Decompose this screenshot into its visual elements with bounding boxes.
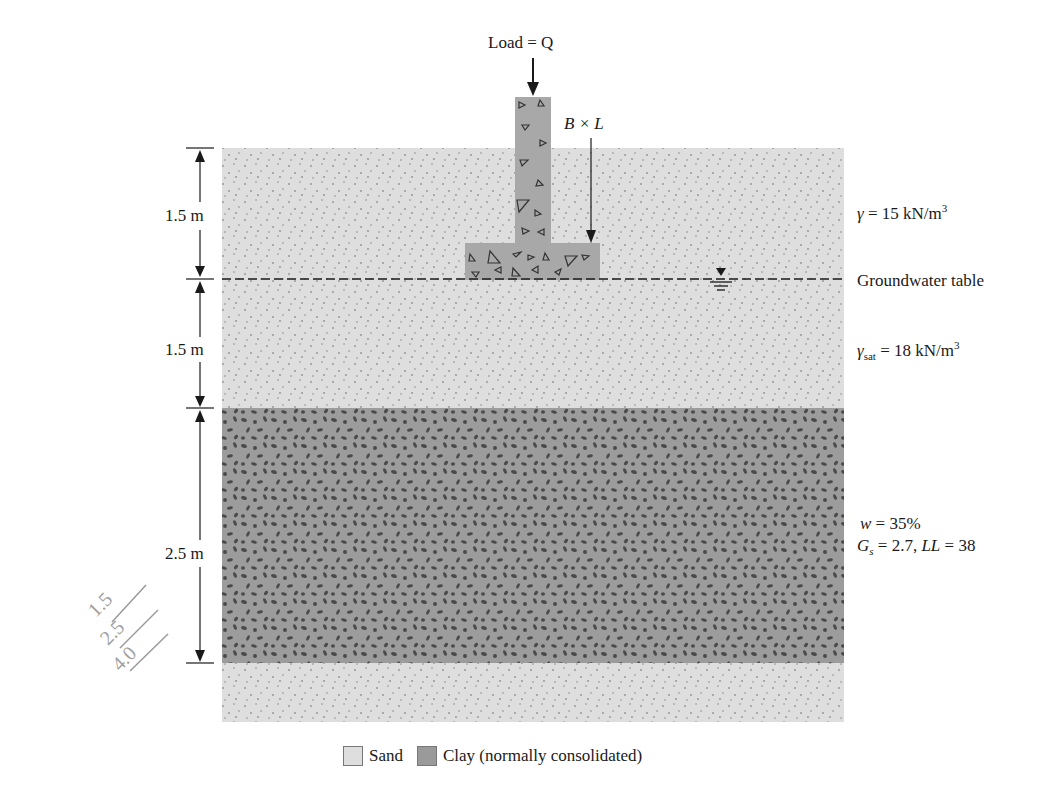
clay-swatch-icon <box>417 746 437 766</box>
sand-swatch-icon <box>343 746 363 766</box>
gamma-symbol: γ <box>857 204 864 223</box>
legend: Sand Clay (normally consolidated) <box>343 746 656 766</box>
w-symbol: w <box>860 514 871 533</box>
sand-layer-saturated <box>222 278 844 408</box>
gamma-sat-symbol: γ <box>857 341 864 360</box>
legend-item-sand: Sand <box>343 746 403 766</box>
gs-value: = 2.7, <box>874 536 922 555</box>
dimension-lines <box>186 148 214 663</box>
gamma-sat-sub: sat <box>864 350 876 362</box>
ll-value: = 38 <box>940 536 975 555</box>
load-arrow-icon <box>527 58 539 96</box>
ll-symbol: LL <box>921 536 940 555</box>
specific-gravity-ll-label: Gs = 2.7, LL = 38 <box>857 537 975 557</box>
clay-layer <box>222 408 844 663</box>
legend-label-clay: Clay (normally consolidated) <box>443 746 642 766</box>
w-value: = 35% <box>871 514 920 533</box>
groundwater-label: Groundwater table <box>857 272 984 289</box>
gamma-exp: 3 <box>942 202 948 214</box>
gs-symbol: G <box>857 536 869 555</box>
dimension-label-clay: 2.5 m <box>165 545 204 562</box>
load-label: Load = Q <box>488 34 553 51</box>
gamma-sat-exp: 3 <box>954 339 960 351</box>
gamma-value: = 15 kN/m <box>864 204 942 223</box>
load-label-text: Load = Q <box>488 33 553 52</box>
unit-weight-label: γ = 15 kN/m3 <box>857 203 947 222</box>
dimension-label-sand-saturated: 1.5 m <box>165 341 204 358</box>
legend-item-clay: Clay (normally consolidated) <box>417 746 642 766</box>
sand-layer-bottom <box>222 663 844 722</box>
legend-label-sand: Sand <box>369 746 403 766</box>
dimension-label-sand-upper: 1.5 m <box>165 207 204 224</box>
handwritten-note: 1.5 2.5 4.0 <box>83 585 168 675</box>
saturated-unit-weight-label: γsat = 18 kN/m3 <box>857 340 960 362</box>
gamma-sat-value: = 18 kN/m <box>876 341 954 360</box>
moisture-content-label: w = 35% <box>860 515 921 532</box>
soil-profile-diagram: 1.5 2.5 4.0 <box>0 0 1053 796</box>
footing-size-label: B × L <box>564 115 604 132</box>
